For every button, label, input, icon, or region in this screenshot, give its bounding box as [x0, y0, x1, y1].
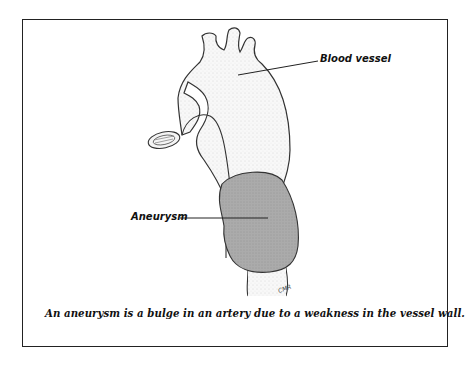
aneurysm-shape: [219, 172, 298, 272]
blood-vessel-label: Blood vessel: [320, 53, 391, 64]
aneurysm-label: Aneurysm: [131, 211, 188, 222]
figure-caption: An aneurysm is a bulge in an artery due …: [45, 307, 465, 319]
